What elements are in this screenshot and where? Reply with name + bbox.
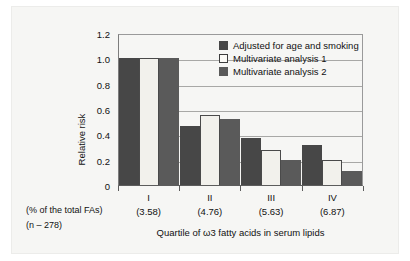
legend-item-adjusted[interactable]: Adjusted for age and smoking — [219, 40, 359, 51]
bar-III-series-1[interactable] — [241, 138, 261, 185]
bar-II-series-1[interactable] — [180, 126, 200, 186]
bar-group-I — [119, 35, 180, 185]
x-axis-title: Quartile of ω3 fatty acids in serum lipi… — [118, 227, 363, 238]
x-tick-mark — [118, 186, 119, 191]
y-tick-label: 0.6 — [62, 105, 110, 116]
legend: Adjusted for age and smoking Multivariat… — [219, 40, 359, 77]
bar-IV-series-2[interactable] — [322, 160, 342, 185]
x-axis-sublabels: (3.58) (4.76) (5.63) (6.87) — [118, 206, 363, 217]
bar-I-series-3[interactable] — [159, 58, 179, 185]
legend-label: Adjusted for age and smoking — [233, 40, 359, 51]
x-tick-label-II: II — [179, 192, 240, 203]
y-tick-label: 1.0 — [62, 54, 110, 65]
legend-swatch-icon — [219, 54, 228, 63]
legend-swatch-icon — [219, 41, 228, 50]
y-tick-label: 0.4 — [62, 130, 110, 141]
x-axis-category-labels: I II III IV — [118, 192, 363, 203]
x-tick-mark — [363, 186, 364, 191]
bar-IV-series-1[interactable] — [302, 145, 322, 186]
legend-item-multivariate-1[interactable]: Multivariate analysis 1 — [219, 53, 359, 64]
bar-I-series-2[interactable] — [139, 58, 159, 185]
bar-II-series-3[interactable] — [220, 119, 240, 185]
y-tick-label: 1.2 — [62, 29, 110, 40]
x-tick-mark — [302, 186, 303, 191]
y-tick-label: 0.8 — [62, 79, 110, 90]
legend-swatch-icon — [219, 67, 228, 76]
x-tick-mark — [179, 186, 180, 191]
bar-IV-series-3[interactable] — [342, 171, 362, 185]
figure-container: Relative risk 1.2 1.0 0.8 0.6 0.4 0.2 0 — [0, 0, 410, 261]
bar-III-series-2[interactable] — [261, 150, 281, 186]
legend-item-multivariate-2[interactable]: Multivariate analysis 2 — [219, 66, 359, 77]
x-sublabel-I: (3.58) — [118, 206, 179, 217]
x-sublabel-II: (4.76) — [179, 206, 240, 217]
legend-label: Multivariate analysis 2 — [233, 66, 326, 77]
y-tick-label: 0.2 — [62, 155, 110, 166]
note-sample-size: (n – 278) — [26, 220, 62, 230]
x-tick-label-III: III — [241, 192, 302, 203]
note-percent-total-fas: (% of the total FAs) — [26, 205, 103, 215]
legend-label: Multivariate analysis 1 — [233, 53, 326, 64]
x-sublabel-III: (5.63) — [241, 206, 302, 217]
x-tick-mark — [240, 186, 241, 191]
bar-I-series-1[interactable] — [119, 58, 139, 185]
bar-III-series-3[interactable] — [281, 160, 301, 185]
x-tick-label-IV: IV — [302, 192, 363, 203]
bar-II-series-2[interactable] — [200, 115, 220, 185]
y-tick-label: 0 — [62, 181, 110, 192]
x-sublabel-IV: (6.87) — [302, 206, 363, 217]
x-tick-label-I: I — [118, 192, 179, 203]
